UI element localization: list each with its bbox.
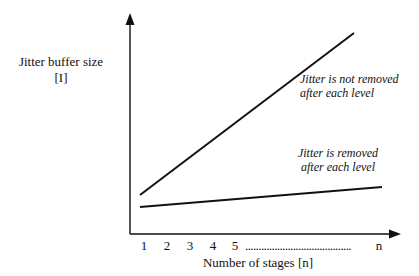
x-tick-1: 1	[141, 239, 148, 253]
x-tick-ellipsis: ........................................	[245, 239, 375, 253]
y-axis-label-line-1: Jitter buffer size	[10, 54, 112, 70]
annotation-not-removed: Jitter is not removed after each level	[300, 73, 418, 100]
annotation-not-removed-line-1: Jitter is not removed	[300, 73, 418, 87]
x-tick-4: 4	[210, 239, 217, 253]
y-axis-arrow-icon	[126, 13, 135, 25]
x-axis-label: Number of stages [n]	[150, 255, 366, 270]
x-tick-2: 2	[164, 239, 171, 253]
series-line-removed	[140, 187, 382, 207]
y-axis-label-line-2: [I]	[10, 70, 112, 86]
annotation-removed-line-2: after each level	[292, 161, 384, 175]
chart-canvas	[0, 0, 419, 276]
x-axis-arrow-icon	[389, 230, 401, 239]
x-tick-5: 5	[232, 239, 239, 253]
x-tick-n: n	[376, 239, 383, 253]
annotation-removed-line-1: Jitter is removed	[292, 147, 384, 161]
y-axis-label: Jitter buffer size [I]	[10, 54, 112, 86]
x-tick-3: 3	[187, 239, 194, 253]
annotation-removed: Jitter is removed after each level	[292, 147, 384, 174]
annotation-not-removed-line-2: after each level	[300, 87, 418, 101]
